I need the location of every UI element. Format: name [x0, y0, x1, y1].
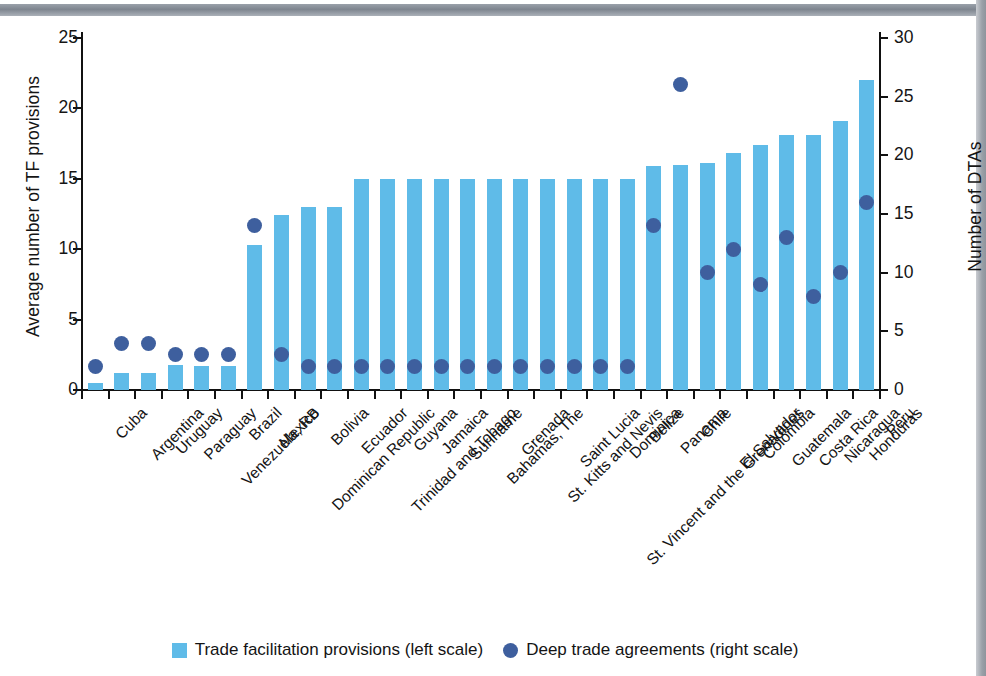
bar [779, 135, 794, 390]
y-axis-right-tick [880, 272, 888, 274]
y-axis-left-tick-label: 5 [32, 311, 78, 329]
legend-item-trade-facilitation-provisions: Trade facilitation provisions (left scal… [172, 640, 484, 660]
x-axis-tick [400, 390, 402, 399]
data-point [753, 277, 768, 292]
bar [88, 383, 103, 390]
bar [646, 166, 661, 390]
bar [168, 365, 183, 390]
y-axis-left-tick-label: 20 [32, 99, 78, 117]
data-point [673, 77, 688, 92]
data-point [833, 265, 848, 280]
data-point [434, 359, 449, 374]
data-point [354, 359, 369, 374]
x-axis-tick [81, 390, 83, 399]
bar [247, 245, 262, 390]
x-axis-tick [773, 390, 775, 399]
data-point [620, 359, 635, 374]
y-axis-right-tick [880, 37, 888, 39]
bar [274, 215, 289, 390]
x-axis-tick [214, 390, 216, 399]
data-point [540, 359, 555, 374]
y-axis-left-tick-label: 0 [32, 381, 78, 399]
y-axis-right-tick-label: 10 [894, 264, 940, 282]
plot-area: 0510152025 051015202530 CubaArgentinaUru… [82, 38, 880, 390]
x-axis-tick [799, 390, 801, 399]
x-axis-tick [294, 390, 296, 399]
y-axis-right-tick-label: 5 [894, 322, 940, 340]
bar [221, 366, 236, 390]
x-axis-tick [427, 390, 429, 399]
y-axis-right-tick [880, 96, 888, 98]
y-axis-left-tick-label: 10 [32, 240, 78, 258]
x-axis-tick [879, 390, 881, 399]
legend-label-trade-facilitation-provisions: Trade facilitation provisions (left scal… [195, 640, 484, 660]
y-axis-right-tick-label: 20 [894, 146, 940, 164]
x-axis-tick [560, 390, 562, 399]
bar [806, 135, 821, 390]
y-axis-right-tick [880, 154, 888, 156]
x-axis-tick [507, 390, 509, 399]
data-point [487, 359, 502, 374]
bar [726, 153, 741, 390]
data-point [726, 242, 741, 257]
x-axis-tick [161, 390, 163, 399]
y-axis-left-tick-label: 15 [32, 170, 78, 188]
x-axis-tick [134, 390, 136, 399]
x-axis-tick [241, 390, 243, 399]
x-axis-tick [480, 390, 482, 399]
y-axis-right-tick [880, 213, 888, 215]
x-axis-tick [187, 390, 189, 399]
data-point [141, 336, 156, 351]
y-axis-left-tick-label: 25 [32, 29, 78, 47]
x-axis-tick [586, 390, 588, 399]
x-axis-tick [453, 390, 455, 399]
bar [673, 165, 688, 390]
x-axis-tick [640, 390, 642, 399]
chart-legend: Trade facilitation provisions (left scal… [0, 640, 970, 660]
y-axis-left-line [81, 32, 83, 390]
data-point [407, 359, 422, 374]
bar [753, 145, 768, 390]
data-point [194, 347, 209, 362]
y-axis-right-title: Number of DTAs [965, 42, 986, 372]
bar [114, 373, 129, 390]
y-axis-right-line [879, 32, 881, 390]
data-point [114, 336, 129, 351]
y-axis-right-tick-label: 30 [894, 29, 940, 47]
bar [833, 121, 848, 390]
x-axis-tick [746, 390, 748, 399]
x-axis-tick [267, 390, 269, 399]
data-point [247, 218, 262, 233]
x-axis-tick [666, 390, 668, 399]
legend-circle-swatch-icon [503, 643, 518, 658]
x-axis-tick [320, 390, 322, 399]
bar [194, 366, 209, 390]
chart-page: Average number of TF provisions Number o… [0, 0, 986, 676]
x-axis-tick [852, 390, 854, 399]
data-point [301, 359, 316, 374]
data-point [567, 359, 582, 374]
x-axis-category-label: Mexico [275, 404, 322, 451]
data-point [88, 359, 103, 374]
data-point [859, 195, 874, 210]
bar [859, 80, 874, 390]
y-axis-right-tick-label: 15 [894, 205, 940, 223]
data-point [806, 289, 821, 304]
x-axis-tick [826, 390, 828, 399]
y-axis-right-tick-label: 0 [894, 381, 940, 399]
x-axis-category-label: Cuba [112, 404, 151, 443]
legend-label-deep-trade-agreements: Deep trade agreements (right scale) [526, 640, 798, 660]
x-axis-tick [613, 390, 615, 399]
x-axis-tick [347, 390, 349, 399]
x-axis-tick [533, 390, 535, 399]
y-axis-right-tick [880, 330, 888, 332]
x-axis-tick [374, 390, 376, 399]
bar [141, 373, 156, 390]
legend-square-swatch-icon [172, 643, 187, 658]
y-axis-right-tick [880, 389, 888, 391]
scan-band-top-decoration [0, 4, 986, 16]
data-point [700, 265, 715, 280]
x-axis-tick [108, 390, 110, 399]
data-point [168, 347, 183, 362]
x-axis-tick [693, 390, 695, 399]
